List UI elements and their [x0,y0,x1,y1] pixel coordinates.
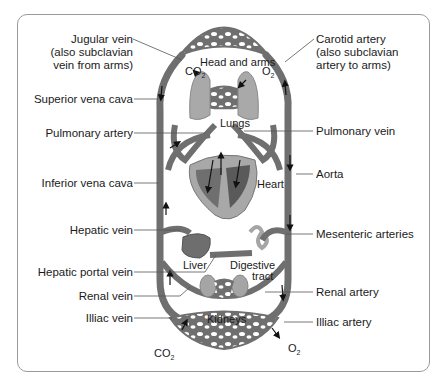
right-lung-shape [238,72,258,120]
liver-shape [182,234,210,258]
heart-shape [189,155,257,219]
label-renal-artery: Renal artery [316,286,379,299]
label-mesenteric-arteries: Mesenteric arteries [316,228,414,241]
label-pulmonary-artery: Pulmonary artery [45,127,133,140]
gas-o2-lungs: O2 [262,65,274,79]
label-hepatic-vein: Hepatic vein [70,224,133,237]
label-jugular-vein: Jugular vein (also subclavian vein from … [51,33,133,72]
kidneys-shape [200,275,248,298]
gas-o2-body: O2 [288,342,300,356]
label-pulmonary-vein: Pulmonary vein [316,125,395,138]
label-inferior-vena-cava: Inferior vena cava [42,177,133,190]
label-illiac-artery: Illiac artery [316,316,372,329]
label-superior-vena-cava: Superior vena cava [34,93,133,106]
gas-co2-body: CO2 [154,347,174,361]
label-renal-vein: Renal vein [79,290,133,303]
organ-label-kidneys: Kidneys [207,313,246,325]
label-aorta: Aorta [316,168,344,181]
head-arms-capillaries [180,28,268,56]
label-hepatic-portal-vein: Hepatic portal vein [38,266,133,279]
label-carotid-artery: Carotid artery (also subclavian artery t… [316,33,398,72]
organ-label-tract: tract [252,270,273,282]
gas-co2-lungs: CO2 [185,65,205,79]
organ-label-liver: Liver [183,259,207,271]
organ-label-lungs: Lungs [220,117,250,129]
label-illiac-vein: Illiac vein [86,312,133,325]
organ-label-heart: Heart [257,178,284,190]
